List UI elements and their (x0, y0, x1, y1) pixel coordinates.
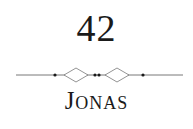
chapter-title-initial: J (65, 87, 76, 114)
chapter-number: 42 (0, 8, 193, 48)
divider-ornament-icon (0, 60, 193, 90)
chapter-title: JONAS (0, 88, 193, 116)
chapter-title-rest: ONAS (75, 93, 128, 113)
